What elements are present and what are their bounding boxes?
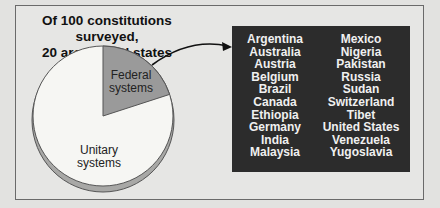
arrow-line: [152, 44, 228, 65]
country-name: Canada: [253, 96, 296, 109]
country-name: Austria: [254, 58, 295, 71]
federal-states-list: Argentina Australia Austria Belgium Braz…: [232, 26, 410, 172]
country-name: Switzerland: [328, 96, 395, 109]
country-name: Yugoslavia: [330, 146, 393, 159]
country-name: Germany: [249, 121, 301, 134]
country-name: United States: [323, 121, 400, 134]
country-name: Mexico: [341, 33, 382, 46]
unitary-label: Unitary systems: [72, 144, 126, 170]
country-name: Pakistan: [336, 58, 385, 71]
unitary-label-line-2: systems: [72, 157, 126, 170]
federal-states-column-left: Argentina Australia Austria Belgium Braz…: [232, 33, 318, 172]
country-name: Malaysia: [250, 146, 300, 159]
country-name: Argentina: [247, 33, 303, 46]
federal-states-column-right: Mexico Nigeria Pakistan Russia Sudan Swi…: [318, 33, 410, 172]
federal-label-line-2: systems: [108, 82, 154, 95]
arrow-head-icon: [222, 42, 232, 51]
federal-label: Federal systems: [108, 69, 154, 95]
